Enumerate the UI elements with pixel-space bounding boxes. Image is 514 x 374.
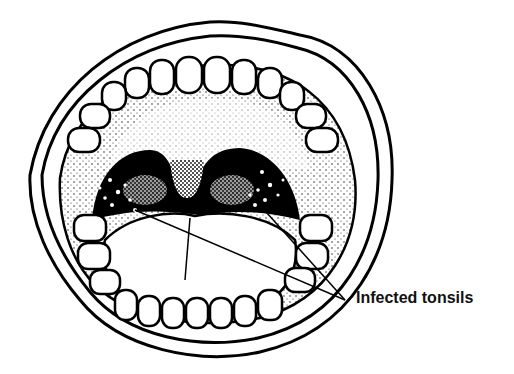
infected-tonsils-label: Infected tonsils: [356, 289, 473, 307]
mouth-illustration: [0, 0, 514, 374]
